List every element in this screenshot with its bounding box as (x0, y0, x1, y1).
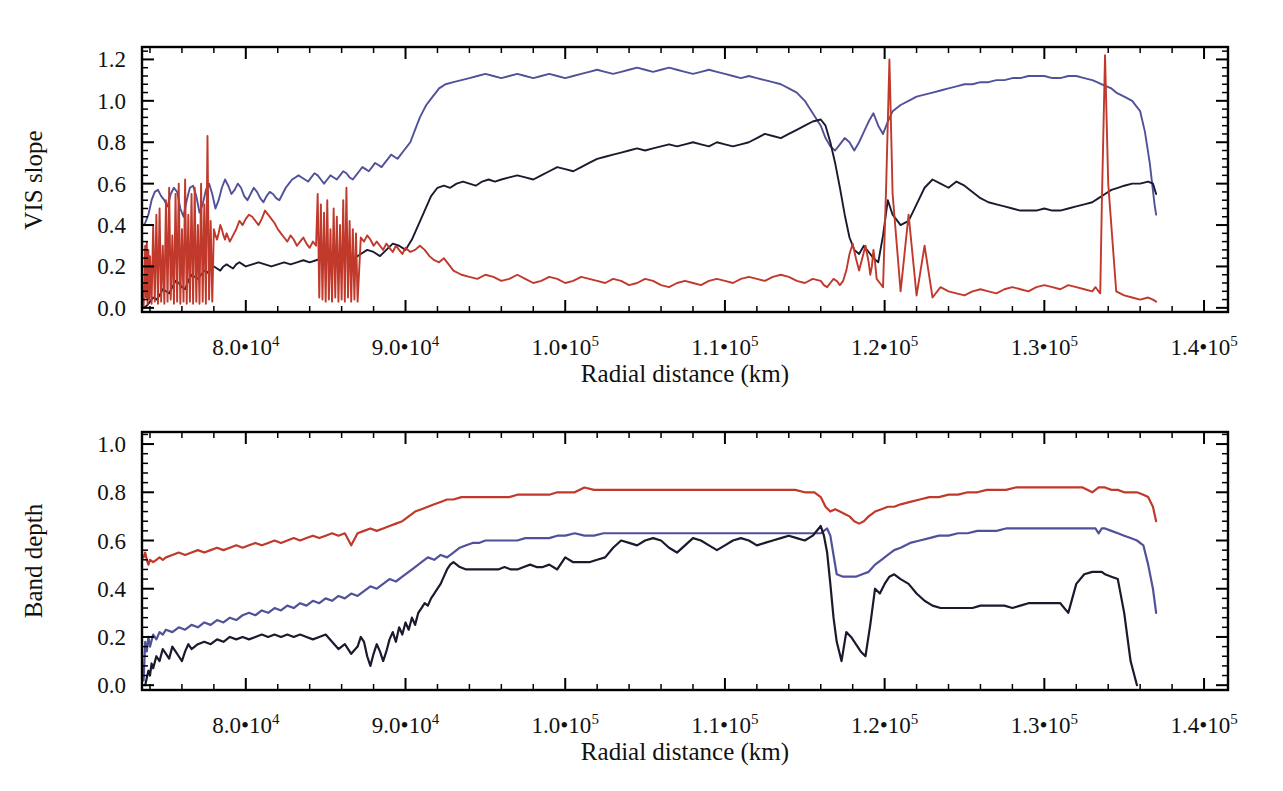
y-axis-title: VIS slope (20, 130, 47, 229)
x-tick-label: 1.2•105 (851, 333, 918, 360)
figure-background (0, 0, 1283, 791)
y-tick-label: 1.0 (97, 89, 126, 114)
x-tick-label: 1.1•105 (691, 333, 758, 360)
x-axis-title: Radial distance (km) (581, 360, 789, 388)
x-tick-label: 1.4•105 (1170, 333, 1237, 360)
x-tick-label: 1.3•105 (1011, 711, 1078, 738)
y-axis-title: Band depth (20, 503, 47, 618)
y-tick-label: 0.0 (97, 296, 126, 321)
x-tick-label: 9.0•104 (372, 711, 440, 738)
y-tick-label: 0.6 (97, 172, 126, 197)
x-tick-label: 8.0•104 (212, 333, 280, 360)
y-tick-label: 0.8 (97, 130, 126, 155)
radial-distance-figure: 0.00.20.40.60.81.01.28.0•1049.0•1041.0•1… (0, 0, 1283, 791)
y-tick-label: 0.4 (97, 213, 126, 238)
x-tick-label: 9.0•104 (372, 333, 440, 360)
y-tick-label: 0.2 (97, 254, 126, 279)
y-tick-label: 0.8 (97, 480, 126, 505)
x-tick-label: 8.0•104 (212, 711, 280, 738)
y-tick-label: 0.6 (97, 529, 126, 554)
y-tick-label: 0.4 (97, 577, 126, 602)
x-tick-label: 1.1•105 (691, 711, 758, 738)
x-tick-label: 1.0•105 (532, 333, 599, 360)
x-tick-label: 1.2•105 (851, 711, 918, 738)
y-tick-label: 1.2 (97, 47, 126, 72)
x-tick-label: 1.0•105 (532, 711, 599, 738)
x-axis-title: Radial distance (km) (581, 738, 789, 766)
y-tick-label: 1.0 (97, 432, 126, 457)
y-tick-label: 0.2 (97, 625, 126, 650)
x-tick-label: 1.4•105 (1170, 711, 1237, 738)
y-tick-label: 0.0 (97, 673, 126, 698)
x-tick-label: 1.3•105 (1011, 333, 1078, 360)
